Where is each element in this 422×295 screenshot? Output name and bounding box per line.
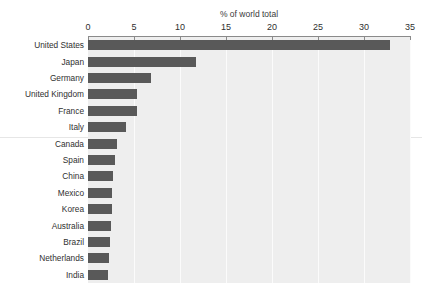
- plot-area: [88, 37, 410, 283]
- x-tick-label: 25: [313, 22, 323, 32]
- y-category-label: Brazil: [0, 237, 84, 247]
- x-tick-mark: [180, 36, 181, 40]
- bar: [88, 40, 390, 50]
- bar: [88, 171, 113, 181]
- y-category-label: Canada: [0, 139, 84, 149]
- bar: [88, 237, 110, 247]
- y-category-label: Germany: [0, 73, 84, 83]
- gridline: [364, 37, 365, 283]
- bar: [88, 139, 117, 149]
- y-category-label: Mexico: [0, 188, 84, 198]
- x-tick-label: 0: [85, 22, 90, 32]
- bar: [88, 122, 126, 132]
- y-category-label: France: [0, 106, 84, 116]
- bar: [88, 57, 196, 67]
- y-category-label: Italy: [0, 122, 84, 132]
- gridline: [410, 37, 411, 283]
- axis-title: % of world total: [88, 9, 410, 19]
- x-tick-mark: [318, 36, 319, 40]
- x-tick-mark: [410, 36, 411, 40]
- bar: [88, 106, 137, 116]
- x-tick-mark: [364, 36, 365, 40]
- y-category-label: Netherlands: [0, 253, 84, 263]
- bar: [88, 221, 111, 231]
- y-category-label: Korea: [0, 204, 84, 214]
- gridline: [180, 37, 181, 283]
- x-tick-mark: [272, 36, 273, 40]
- bar-chart: % of world total 05101520253035 United S…: [0, 0, 422, 295]
- y-category-label: United Kingdom: [0, 89, 84, 99]
- bar: [88, 89, 137, 99]
- x-tick-label: 35: [405, 22, 415, 32]
- bar: [88, 253, 109, 263]
- y-category-label: United States: [0, 40, 84, 50]
- bar: [88, 73, 151, 83]
- bar: [88, 204, 112, 214]
- y-category-label: Japan: [0, 57, 84, 67]
- x-tick-label: 30: [359, 22, 369, 32]
- x-tick-mark: [88, 36, 89, 40]
- y-category-label: Australia: [0, 221, 84, 231]
- bar: [88, 188, 112, 198]
- bar: [88, 270, 108, 280]
- x-tick-mark: [226, 36, 227, 40]
- x-tick-label: 15: [221, 22, 231, 32]
- bar: [88, 155, 115, 165]
- x-tick-mark: [134, 36, 135, 40]
- y-axis-category-labels: United StatesJapanGermanyUnited KingdomF…: [0, 0, 84, 295]
- y-category-label: Spain: [0, 155, 84, 165]
- y-category-label: India: [0, 270, 84, 280]
- gridline: [318, 37, 319, 283]
- gridline: [272, 37, 273, 283]
- x-tick-label: 5: [131, 22, 136, 32]
- x-tick-label: 20: [267, 22, 277, 32]
- x-tick-label: 10: [175, 22, 185, 32]
- gridline: [226, 37, 227, 283]
- y-category-label: China: [0, 171, 84, 181]
